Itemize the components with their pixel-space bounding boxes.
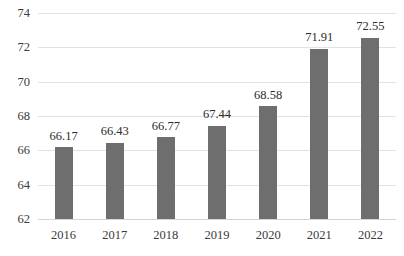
bar (259, 106, 277, 219)
bar-chart: 66.1766.4366.7767.4468.5871.9172.55 6264… (0, 0, 404, 256)
x-axis-tick-label: 2017 (102, 229, 127, 242)
x-axis-tick-label: 2020 (256, 229, 281, 242)
x-axis-tick-label: 2016 (51, 229, 76, 242)
bar-series: 66.1766.4366.7767.4468.5871.9172.55 (38, 13, 396, 219)
y-axis-tick-label: 70 (6, 75, 30, 88)
bar-value-label: 66.17 (50, 130, 78, 143)
x-axis-tick-label: 2018 (153, 229, 178, 242)
bar-group: 66.43 (89, 13, 140, 219)
bar (55, 147, 73, 219)
bar-group: 71.91 (294, 13, 345, 219)
y-axis-tick-label: 64 (6, 178, 30, 191)
x-axis-tick-label: 2022 (358, 229, 383, 242)
bar (310, 49, 328, 219)
bar-group: 68.58 (243, 13, 294, 219)
bar (361, 38, 379, 219)
bar-value-label: 67.44 (203, 108, 231, 121)
bar-value-label: 66.77 (152, 120, 180, 133)
bar (157, 137, 175, 219)
plot-area: 66.1766.4366.7767.4468.5871.9172.55 (38, 13, 396, 219)
bar (106, 143, 124, 219)
bar-group: 66.17 (38, 13, 89, 219)
gridline (38, 219, 396, 220)
bar-value-label: 68.58 (254, 89, 282, 102)
bar-group: 72.55 (345, 13, 396, 219)
bar-group: 67.44 (191, 13, 242, 219)
y-axis-tick-label: 68 (6, 110, 30, 123)
y-axis-tick-label: 62 (6, 213, 30, 226)
bar-value-label: 71.91 (305, 31, 333, 44)
bar-value-label: 66.43 (101, 125, 129, 138)
x-axis-tick-label: 2021 (307, 229, 332, 242)
y-axis-tick-label: 66 (6, 144, 30, 157)
bar-group: 66.77 (140, 13, 191, 219)
bar (208, 126, 226, 219)
y-axis-tick-label: 74 (6, 7, 30, 20)
x-axis-tick-label: 2019 (205, 229, 230, 242)
y-axis-tick-label: 72 (6, 41, 30, 54)
bar-value-label: 72.55 (356, 20, 384, 33)
